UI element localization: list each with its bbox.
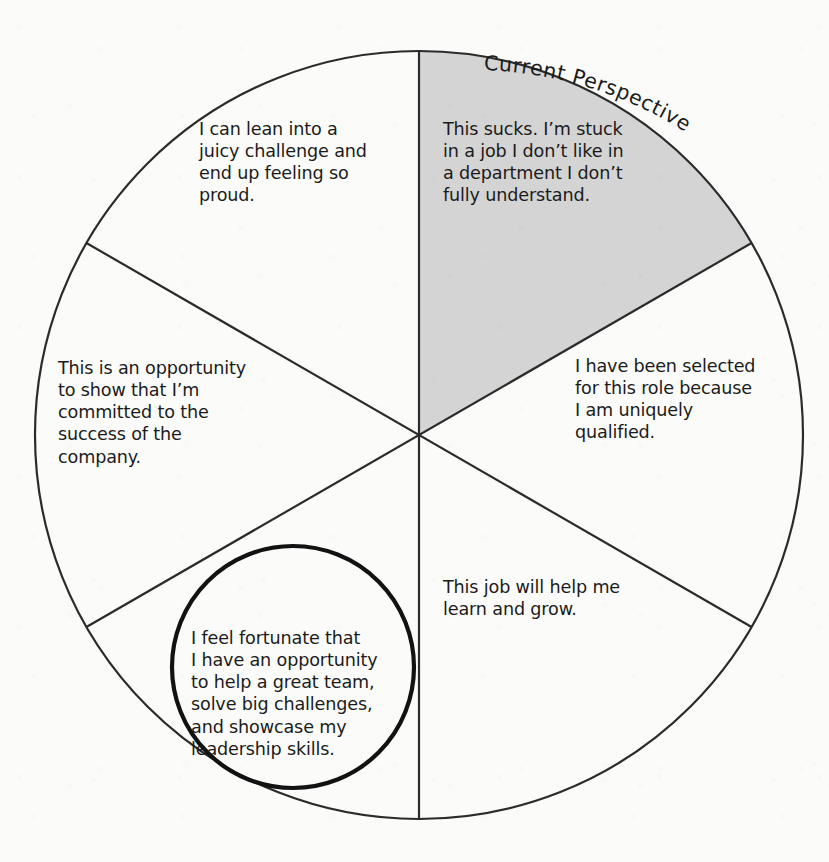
sector-5-text: This is an opportunity to show that I’m …	[58, 357, 273, 468]
diagram-canvas: Current Perspective This sucks. I’m stuc…	[0, 0, 829, 862]
sector-1-text: This sucks. I’m stuck in a job I don’t l…	[443, 118, 658, 207]
sector-6-text: I can lean into a juicy challenge and en…	[199, 118, 404, 207]
sector-2-text: I have been selected for this role becau…	[575, 355, 780, 444]
sector-4-text: I feel fortunate that I have an opportun…	[191, 627, 396, 760]
sector-3-text: This job will help me learn and grow.	[443, 576, 658, 620]
